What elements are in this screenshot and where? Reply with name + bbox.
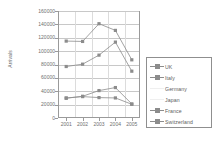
y-tick-label: 140000 (21, 22, 55, 27)
legend-marker-icon (149, 117, 165, 126)
legend-item-uk[interactable]: UK (149, 61, 211, 72)
legend-item-switzerland[interactable]: Switzerland (149, 116, 211, 127)
legend-label: Germany (165, 86, 187, 92)
data-point-uk (81, 40, 84, 43)
data-point-uk (130, 58, 133, 61)
y-tick-label: 100000 (21, 49, 55, 54)
chart-container: Arrivals 0200004000060000800001000001200… (0, 0, 217, 142)
legend-marker-icon (149, 95, 165, 104)
legend-item-italy[interactable]: Italy (149, 72, 211, 83)
legend[interactable]: UKItalyGermanyJapanFranceSwitzerland (146, 57, 212, 128)
y-axis-label: Arrivals (7, 37, 13, 81)
legend-item-france[interactable]: France (149, 105, 211, 116)
data-point-italy (130, 70, 133, 73)
data-point-switzerland (81, 95, 84, 98)
y-tick-label: 80000 (21, 62, 55, 67)
y-tick-label: 0 (21, 116, 55, 121)
legend-label: Japan (165, 97, 180, 103)
data-point-switzerland (130, 103, 133, 106)
x-tick-mark (99, 118, 100, 121)
data-point-uk (97, 22, 100, 25)
x-tick-mark (115, 118, 116, 121)
x-tick-mark (66, 118, 67, 121)
data-point-switzerland (65, 96, 68, 99)
data-point-italy (97, 54, 100, 57)
legend-label: UK (165, 64, 172, 70)
y-tick-label: 60000 (21, 75, 55, 80)
legend-label: France (165, 108, 182, 114)
data-point-uk (65, 39, 68, 42)
data-point-france (97, 89, 100, 92)
x-tick-label: 2005 (121, 121, 143, 127)
data-series-layer (58, 11, 140, 118)
y-tick-label: 160000 (21, 9, 55, 14)
y-tick-mark (55, 118, 58, 119)
legend-marker-icon (149, 84, 165, 93)
data-point-france (114, 86, 117, 89)
legend-marker-icon (149, 73, 165, 82)
legend-label: Switzerland (165, 119, 193, 125)
legend-item-japan[interactable]: Japan (149, 94, 211, 105)
data-point-italy (81, 63, 84, 66)
data-point-uk (114, 29, 117, 32)
y-tick-label: 120000 (21, 35, 55, 40)
data-point-italy (65, 65, 68, 68)
y-tick-label: 40000 (21, 89, 55, 94)
data-point-switzerland (114, 96, 117, 99)
x-tick-mark (83, 118, 84, 121)
x-tick-mark (132, 118, 133, 121)
data-point-switzerland (97, 96, 100, 99)
legend-label: Italy (165, 75, 175, 81)
legend-item-germany[interactable]: Germany (149, 83, 211, 94)
y-tick-label: 20000 (21, 102, 55, 107)
data-point-italy (114, 41, 117, 44)
legend-marker-icon (149, 62, 165, 71)
legend-marker-icon (149, 106, 165, 115)
